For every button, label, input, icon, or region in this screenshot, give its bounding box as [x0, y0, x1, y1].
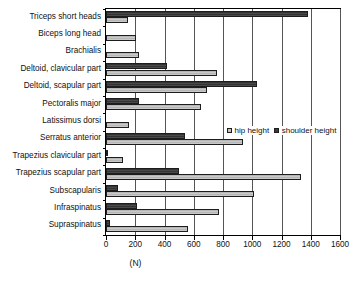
x-tick-label-1200: 1200 — [272, 240, 290, 250]
bar-hip-height — [106, 17, 128, 23]
bar-hip-height — [106, 226, 188, 232]
bar-group — [106, 61, 340, 78]
category-tick — [103, 200, 106, 201]
legend-swatch-icon-shoulder — [274, 128, 279, 133]
x-axis-title: (N) — [0, 258, 359, 268]
category-tick — [103, 96, 106, 97]
bar-group — [106, 26, 340, 43]
bar-hip-height — [106, 139, 243, 145]
x-tick-label-600: 600 — [187, 240, 201, 250]
bar-hip-height — [106, 87, 207, 93]
category-label-2: Brachialis — [66, 46, 102, 55]
x-tick-label-1400: 1400 — [302, 240, 320, 250]
chart-legend: hip height shoulder height — [226, 126, 337, 135]
bar-hip-height — [106, 122, 129, 128]
x-tick-label-200: 200 — [128, 240, 142, 250]
bar-shoulder-height — [106, 150, 108, 156]
legend-item-hip-height: hip height — [227, 126, 269, 135]
bar-shoulder-height — [106, 220, 110, 226]
bar-shoulder-height — [106, 203, 137, 209]
category-tick — [103, 165, 106, 166]
category-tick — [103, 131, 106, 132]
bar-hip-height — [106, 157, 123, 163]
x-tick-label-800: 800 — [216, 240, 230, 250]
bar-shoulder-height — [106, 133, 185, 139]
bar-group — [106, 165, 340, 182]
bar-shoulder-height — [106, 81, 257, 87]
bar-group — [106, 79, 340, 96]
category-label-6: Latissimus dorsi — [42, 116, 101, 125]
bar-hip-height — [106, 70, 217, 76]
category-label-4: Deltoid, scapular part — [24, 81, 101, 90]
bar-hip-height — [106, 174, 301, 180]
bar-hip-height — [106, 191, 254, 197]
legend-swatch-icon-hip — [227, 128, 232, 133]
category-label-0: Triceps short heads — [29, 12, 101, 21]
bar-shoulder-height — [106, 63, 167, 69]
category-label-10: Subscapularis — [50, 186, 101, 195]
legend-item-shoulder-height: shoulder height — [274, 126, 336, 135]
category-axis-labels: Triceps short headsBiceps long headBrach… — [0, 8, 103, 236]
bar-shoulder-height — [106, 168, 179, 174]
bar-group — [106, 9, 340, 26]
plot-area — [105, 8, 341, 236]
x-tick-label-1000: 1000 — [243, 240, 261, 250]
bar-group — [106, 44, 340, 61]
category-label-3: Deltoid, clavicular part — [20, 64, 101, 73]
category-label-12: Supraspinatus — [49, 220, 101, 229]
category-tick — [103, 26, 106, 27]
bar-group — [106, 183, 340, 200]
bar-hip-height — [106, 52, 139, 58]
bar-hip-height — [106, 104, 201, 110]
gridline-1600 — [340, 9, 341, 235]
category-tick — [103, 183, 106, 184]
category-label-11: Infraspinatus — [54, 203, 101, 212]
bar-hip-height — [106, 209, 219, 215]
category-tick — [103, 44, 106, 45]
category-tick — [103, 148, 106, 149]
bar-hip-height — [106, 35, 136, 41]
bar-group — [106, 218, 340, 235]
x-tick-label-1600: 1600 — [331, 240, 349, 250]
category-tick — [103, 9, 106, 10]
legend-label-shoulder: shoulder height — [282, 126, 337, 135]
x-tick-label-400: 400 — [158, 240, 172, 250]
legend-label-hip: hip height — [235, 126, 270, 135]
bar-shoulder-height — [106, 98, 139, 104]
bar-shoulder-height — [106, 11, 308, 17]
category-label-7: Serratus anterior — [40, 133, 101, 142]
bar-chart: Triceps short headsBiceps long headBrach… — [0, 0, 359, 282]
category-label-9: Trapezius scapular part — [16, 168, 101, 177]
x-axis-title-text: (N) — [130, 258, 142, 268]
bar-group — [106, 148, 340, 165]
category-tick — [103, 61, 106, 62]
bar-group — [106, 200, 340, 217]
category-tick — [103, 218, 106, 219]
category-label-8: Trapezius clavicular part — [13, 151, 101, 160]
category-tick — [103, 79, 106, 80]
category-label-5: Pectoralis major — [42, 99, 101, 108]
category-tick — [103, 113, 106, 114]
x-tick-label-0: 0 — [104, 240, 109, 250]
category-label-1: Biceps long head — [38, 29, 101, 38]
x-axis-tick-labels: 02004006008001000120014001600 — [0, 240, 359, 252]
bar-shoulder-height — [106, 185, 118, 191]
bar-group — [106, 96, 340, 113]
